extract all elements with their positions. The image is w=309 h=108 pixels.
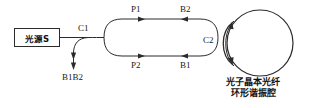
b1-direction-arrow-icon xyxy=(181,53,188,58)
output-arrow-lower-icon xyxy=(71,63,76,71)
coupler-c1-label: C1 xyxy=(78,24,89,33)
output-b1b2-label: B1B2 xyxy=(62,73,83,82)
path-b2-label: B2 xyxy=(180,5,191,14)
path-p2-label: P2 xyxy=(131,61,141,70)
ring-resonator-circle xyxy=(227,10,293,76)
coupler-c2-label: C2 xyxy=(203,36,214,45)
c1-drop-branch xyxy=(74,38,89,53)
resonator-caption: 光子晶本光纤 环形谐振腔 xyxy=(201,77,305,99)
resonator-caption-line1: 光子晶本光纤 xyxy=(201,77,305,88)
light-source-box: 光源S xyxy=(14,28,60,47)
p2-direction-arrow-icon xyxy=(138,53,145,58)
resonator-caption-line2: 环形谐振腔 xyxy=(201,88,305,99)
p1-direction-arrow-icon xyxy=(138,17,145,22)
output-arrow-upper-icon xyxy=(71,53,76,61)
light-source-label: 光源S xyxy=(25,32,49,44)
b2-direction-arrow-icon xyxy=(181,17,188,22)
sagnac-loop-path xyxy=(104,19,218,56)
figure-canvas: 光源S C1 C2 P1 B2 P2 B1 B1B2 光子晶本光纤 环形谐振腔 xyxy=(0,0,309,108)
path-b1-label: B1 xyxy=(180,61,191,70)
path-p1-label: P1 xyxy=(131,5,141,14)
